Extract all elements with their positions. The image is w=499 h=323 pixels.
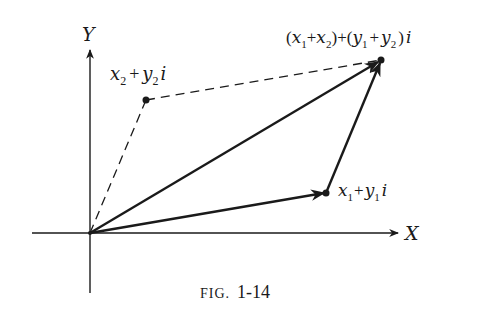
point-sum <box>378 57 385 64</box>
vector-addition-diagram: Y X x2+y2i x1+y1i (x1+x2)+(y1+y2)i FIG.1… <box>0 0 499 323</box>
caption-prefix: FIG. <box>200 286 230 301</box>
y-axis-label: Y <box>82 23 97 45</box>
label-sum: (x1+x2)+(y1+y2)i <box>286 27 411 50</box>
vector-z2-translated <box>326 63 380 193</box>
x-axis-label: X <box>403 222 420 244</box>
label-z1: x1+y1i <box>338 180 387 203</box>
point-z2 <box>143 97 150 104</box>
point-z1 <box>323 190 330 197</box>
origin <box>88 231 92 235</box>
figure-caption: FIG.1-14 <box>200 282 270 302</box>
caption-number: 1-14 <box>237 282 270 302</box>
label-z2: x2+y2i <box>110 63 166 88</box>
dashed-side-origin-to-z2 <box>90 100 146 233</box>
